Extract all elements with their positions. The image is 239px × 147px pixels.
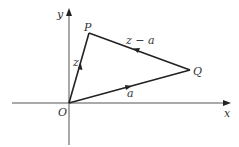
y-axis-label: y bbox=[56, 8, 64, 21]
vector-z-minus-a-label: z − a bbox=[125, 34, 155, 47]
vector-z-label: z bbox=[72, 56, 79, 69]
arrow-qp-icon bbox=[133, 48, 140, 53]
vector-a-label: a bbox=[127, 87, 134, 100]
point-p-label: P bbox=[83, 21, 92, 34]
x-axis-label: x bbox=[224, 107, 231, 120]
diagram-canvas: y x O P Q z z − a a bbox=[0, 0, 239, 147]
vector-diagram: y x O P Q z z − a a bbox=[0, 0, 239, 147]
point-q-label: Q bbox=[193, 65, 202, 78]
y-axis-arrow-icon bbox=[66, 8, 72, 16]
x-axis-arrow-icon bbox=[223, 100, 231, 106]
origin-label: O bbox=[58, 106, 67, 119]
